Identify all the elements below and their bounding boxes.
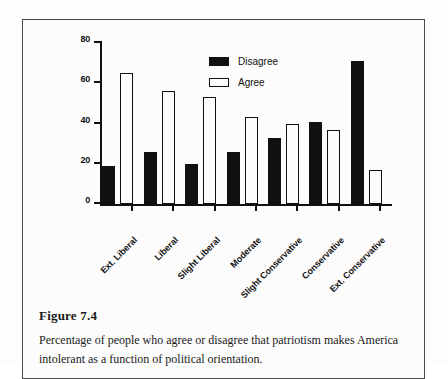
figure-caption: Figure 7.4 Percentage of people who agre… [39, 308, 411, 368]
x-axis-label: Moderate [228, 235, 263, 270]
bar-disagree [227, 152, 240, 204]
chart-legend: Disagree Agree [209, 53, 278, 95]
y-axis-tick: 60 [94, 81, 101, 83]
bar-disagree [351, 61, 364, 204]
y-axis-tick-label: 20 [80, 155, 90, 165]
x-axis-tick [296, 204, 298, 211]
y-axis-tick-label: 80 [80, 34, 90, 44]
y-axis-tick: 40 [94, 122, 101, 124]
caption-title: Figure 7.4 [39, 308, 411, 324]
x-axis-tick [172, 204, 174, 211]
bar-disagree [268, 138, 281, 204]
bar-disagree [309, 122, 322, 205]
y-axis-tick: 80 [94, 41, 101, 43]
bar-agree [286, 124, 299, 205]
y-axis-tick-label: 0 [85, 195, 90, 205]
bar-chart: 020406080Ext. LiberalLiberalSlight Liber… [23, 20, 424, 288]
bar-agree [162, 91, 175, 204]
legend-swatch-disagree [209, 57, 229, 66]
x-axis-tick [379, 204, 381, 211]
bar-agree [369, 170, 382, 204]
x-axis-tick [338, 204, 340, 211]
bar-agree [120, 73, 133, 204]
x-axis-tick [131, 204, 133, 211]
y-axis-tick: 20 [94, 162, 101, 164]
x-axis-line [100, 204, 392, 206]
legend-label-disagree: Disagree [238, 56, 278, 67]
x-axis-label: Ext. Liberal [98, 235, 139, 276]
y-axis-tick-label: 60 [80, 74, 90, 84]
figure-frame: 020406080Ext. LiberalLiberalSlight Liber… [22, 19, 425, 379]
y-axis-tick-label: 40 [80, 115, 90, 125]
bar-disagree [102, 166, 115, 204]
legend-item-agree: Agree [209, 74, 278, 90]
x-axis-tick [255, 204, 257, 211]
bar-agree [203, 97, 216, 204]
legend-item-disagree: Disagree [209, 53, 278, 69]
x-axis-tick [214, 204, 216, 211]
x-axis-label: Liberal [153, 235, 180, 262]
legend-swatch-agree [209, 78, 229, 87]
caption-body: Percentage of people who agree or disagr… [39, 331, 411, 368]
bar-agree [245, 117, 258, 204]
bar-disagree [144, 152, 157, 204]
bar-agree [327, 130, 340, 204]
y-axis-tick: 0 [94, 202, 101, 204]
x-axis-label: Slight Liberal [175, 235, 221, 281]
bar-disagree [185, 164, 198, 204]
legend-label-agree: Agree [238, 77, 265, 88]
